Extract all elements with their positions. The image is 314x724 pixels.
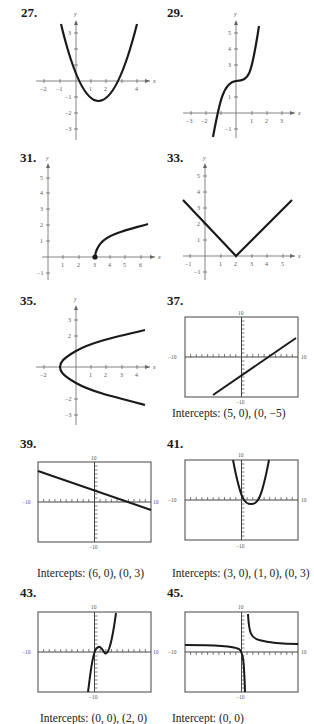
svg-text:−3: −3 (65, 126, 71, 132)
svg-text:4: 4 (197, 189, 200, 195)
svg-text:3: 3 (280, 118, 283, 124)
graph-31: x y 123 456 543 21−1 (0, 150, 160, 290)
svg-text:−2: −2 (201, 118, 207, 124)
graph-39: 10−10 −1010 (0, 430, 160, 550)
svg-text:10: 10 (301, 497, 307, 503)
graph-45: 10−10 −1010 (155, 575, 314, 700)
svg-text:10: 10 (301, 354, 307, 360)
svg-text:−2: −2 (65, 110, 71, 116)
graph-41: 10−10 −1010 (155, 430, 314, 550)
svg-text:3: 3 (68, 317, 71, 323)
svg-text:−10: −10 (168, 354, 177, 360)
svg-text:y: y (233, 11, 237, 17)
svg-text:−10: −10 (22, 649, 31, 655)
svg-text:2: 2 (265, 118, 268, 124)
svg-text:−10: −10 (236, 543, 245, 549)
svg-text:2: 2 (197, 221, 200, 227)
svg-text:5: 5 (228, 30, 231, 36)
svg-text:−1: −1 (194, 269, 200, 275)
svg-text:−10: −10 (22, 499, 31, 505)
svg-text:2: 2 (77, 262, 80, 268)
svg-text:−1: −1 (65, 94, 71, 100)
caption-43: Intercepts: (0, 0), (2, 0) (40, 712, 147, 724)
svg-text:−2: −2 (40, 372, 46, 378)
svg-text:x: x (297, 110, 301, 116)
svg-text:1: 1 (89, 372, 92, 378)
svg-text:−3: −3 (65, 412, 71, 418)
svg-text:2: 2 (104, 86, 107, 92)
caption-37: Intercepts: (5, 0), (0, −5) (172, 407, 285, 419)
svg-text:1: 1 (228, 94, 231, 100)
svg-text:1: 1 (89, 86, 92, 92)
svg-text:−1: −1 (56, 86, 62, 92)
svg-text:1: 1 (250, 118, 253, 124)
svg-text:10: 10 (238, 310, 244, 316)
svg-text:1: 1 (197, 237, 200, 243)
svg-text:4: 4 (135, 86, 138, 92)
graph-33: x y −112 345 543 21−1 (155, 150, 314, 290)
graph-35: x y −212 34 32 −2−3 (0, 285, 160, 430)
svg-text:y: y (45, 155, 49, 161)
graph-29: x y −3−2 123 543 1−1 (155, 0, 314, 150)
graph-43: 10−10 −1010 (0, 575, 160, 700)
svg-text:2: 2 (68, 333, 71, 339)
svg-text:−10: −10 (168, 649, 177, 655)
svg-text:3: 3 (120, 372, 123, 378)
svg-text:3: 3 (68, 30, 71, 36)
svg-text:−3: −3 (186, 118, 192, 124)
svg-text:10: 10 (91, 455, 97, 461)
svg-text:y: y (202, 155, 206, 161)
svg-text:−10: −10 (89, 694, 98, 700)
svg-text:4: 4 (108, 262, 111, 268)
svg-text:4: 4 (265, 261, 268, 267)
svg-text:10: 10 (301, 649, 307, 655)
svg-text:10: 10 (91, 604, 97, 610)
svg-text:5: 5 (197, 173, 200, 179)
svg-text:y: y (73, 296, 77, 302)
svg-text:−10: −10 (168, 497, 177, 503)
svg-text:x: x (297, 253, 301, 259)
svg-text:5: 5 (40, 175, 43, 181)
graph-37: 10−10 −1010 (155, 285, 314, 405)
svg-text:1: 1 (219, 261, 222, 267)
svg-text:6: 6 (139, 262, 142, 268)
svg-text:10: 10 (238, 604, 244, 610)
svg-text:5: 5 (123, 262, 126, 268)
svg-text:−1: −1 (185, 261, 191, 267)
svg-text:−2: −2 (40, 86, 46, 92)
svg-text:y: y (73, 11, 77, 17)
svg-text:3: 3 (197, 205, 200, 211)
svg-text:−2: −2 (65, 396, 71, 402)
caption-45: Intercept: (0, 0) (172, 712, 244, 724)
svg-text:3: 3 (93, 262, 96, 268)
svg-text:10: 10 (238, 452, 244, 458)
svg-text:3: 3 (228, 62, 231, 68)
svg-text:−10: −10 (89, 544, 98, 550)
svg-text:5: 5 (281, 261, 284, 267)
svg-text:−1: −1 (37, 270, 43, 276)
svg-text:4: 4 (40, 190, 43, 196)
svg-text:−1: −1 (225, 126, 231, 132)
svg-text:4: 4 (228, 46, 231, 52)
svg-text:−10: −10 (236, 399, 245, 405)
svg-text:2: 2 (104, 372, 107, 378)
svg-text:3: 3 (40, 206, 43, 212)
svg-text:2: 2 (234, 261, 237, 267)
svg-text:1: 1 (61, 262, 64, 268)
svg-text:2: 2 (40, 222, 43, 228)
graph-27: x y −2−1 124 3−1 −2−3 (0, 0, 160, 150)
svg-text:−10: −10 (236, 694, 245, 700)
svg-text:4: 4 (135, 372, 138, 378)
svg-text:3: 3 (250, 261, 253, 267)
svg-text:1: 1 (40, 238, 43, 244)
